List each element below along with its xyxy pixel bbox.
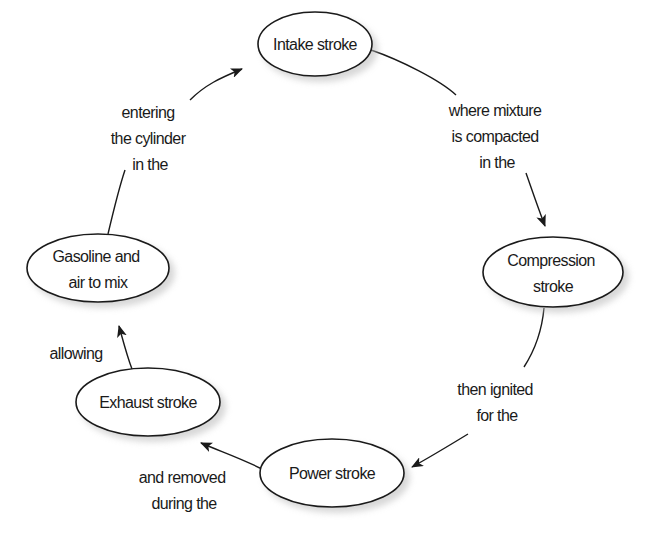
edge-label-line: and removed xyxy=(139,469,226,486)
node-label-line: Power stroke xyxy=(289,465,376,482)
node-power-stroke: Power stroke xyxy=(260,439,410,513)
arrow-icon xyxy=(119,326,132,369)
arrow-icon xyxy=(526,173,545,226)
edge-label-line: entering xyxy=(122,104,175,121)
node-label-line: stroke xyxy=(533,278,574,295)
edge-gasoline-to-intake: entering the cylinder in the xyxy=(108,69,242,234)
edge-label: where mixture is compacted in the xyxy=(448,102,546,171)
edge-label: allowing xyxy=(49,345,102,362)
connector-line xyxy=(371,50,456,95)
edge-exhaust-to-gasoline: allowing xyxy=(49,326,132,369)
arrow-icon xyxy=(412,434,468,467)
edge-power-to-exhaust: and removed during the xyxy=(139,443,262,512)
node-label-line: Exhaust stroke xyxy=(99,394,197,411)
node-ellipse xyxy=(483,237,623,307)
node-label-line: air to mix xyxy=(69,274,128,291)
edge-label-line: where mixture xyxy=(448,102,542,119)
edge-label: then ignited for the xyxy=(457,381,536,424)
edge-label: entering the cylinder in the xyxy=(111,104,189,173)
node-ellipse xyxy=(27,234,169,302)
edge-intake-to-compression: where mixture is compacted in the xyxy=(371,50,545,226)
edge-label-line: allowing xyxy=(49,345,102,362)
arrow-icon xyxy=(190,69,242,100)
node-gasoline-and-air: Gasoline and air to mix xyxy=(27,234,175,308)
edge-label-line: for the xyxy=(476,407,518,424)
edge-label-line: is compacted xyxy=(452,128,539,145)
node-label-line: Gasoline and xyxy=(53,248,140,265)
connector-line xyxy=(108,170,125,234)
edge-label-line: then ignited xyxy=(457,381,533,398)
node-label: Power stroke xyxy=(289,465,376,482)
node-label-line: Intake stroke xyxy=(273,36,358,53)
connector-line xyxy=(524,308,544,367)
node-label: Exhaust stroke xyxy=(99,394,197,411)
arrow-icon xyxy=(201,443,262,469)
node-label: Intake stroke xyxy=(273,36,358,53)
node-exhaust-stroke: Exhaust stroke xyxy=(76,368,226,442)
node-compression-stroke: Compression stroke xyxy=(483,237,629,313)
edge-label-line: during the xyxy=(151,495,217,512)
edge-label-line: in the xyxy=(479,154,515,171)
edge-label-line: the cylinder xyxy=(111,130,187,147)
node-intake-stroke: Intake stroke xyxy=(258,12,378,82)
concept-map-canvas: entering the cylinder in the where mixtu… xyxy=(0,0,652,537)
node-label-line: Compression xyxy=(507,252,595,269)
edge-label-line: in the xyxy=(132,156,168,173)
edge-compression-to-power: then ignited for the xyxy=(412,308,544,467)
edge-label: and removed during the xyxy=(139,469,230,512)
